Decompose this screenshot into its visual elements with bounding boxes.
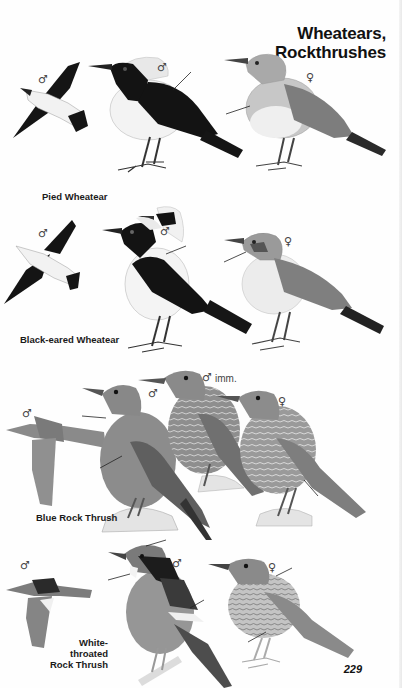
white-throated-rock-thrush-flight-illustration — [4, 568, 92, 648]
caption-blue-rock-thrush: Blue Rock Thrush — [36, 512, 117, 523]
white-throated-rock-thrush-flight-male-symbol: ♂ — [20, 560, 30, 572]
blue-rock-thrush-flight-male-symbol: ♂ — [22, 408, 32, 420]
page-number: 229 — [344, 663, 362, 675]
black-eared-wheatear-female-illustration — [224, 230, 389, 352]
blue-rock-thrush-immature-label: imm. — [215, 373, 237, 384]
blue-rock-thrush-female-symbol: ♀ — [278, 396, 286, 408]
caption-white-throated-rock-thrush: White-throated Rock Thrush — [46, 637, 108, 670]
pied-wheatear-male-symbol: ♂ — [157, 62, 167, 74]
caption-pied-wheatear: Pied Wheatear — [42, 191, 107, 202]
black-eared-wheatear-female-symbol: ♀ — [284, 236, 292, 248]
pied-wheatear-flight-illustration — [8, 58, 88, 148]
pied-wheatear-flight-male-symbol: ♂ — [38, 74, 48, 86]
white-throated-rock-thrush-male-symbol: ♂ — [172, 558, 182, 570]
caption-black-eared-wheatear: Black-eared Wheatear — [20, 334, 119, 345]
blue-rock-thrush-immature-male-symbol: ♂ — [202, 372, 212, 384]
black-eared-wheatear-flight-male-symbol: ♂ — [38, 228, 48, 240]
title-line-1: Wheatears, — [275, 24, 386, 43]
white-throated-rock-thrush-female-illustration — [208, 556, 358, 668]
black-eared-wheatear-male-symbol: ♂ — [160, 226, 170, 238]
pied-wheatear-female-symbol: ♀ — [306, 72, 314, 84]
pied-wheatear-female-illustration — [224, 50, 389, 175]
blue-rock-thrush-male-symbol: ♂ — [148, 388, 158, 400]
caption-line-2: Rock Thrush — [46, 659, 108, 670]
caption-line-1: White-throated — [46, 637, 108, 659]
white-throated-rock-thrush-female-symbol: ♀ — [268, 562, 276, 574]
blue-rock-thrush-female-illustration — [216, 388, 376, 528]
